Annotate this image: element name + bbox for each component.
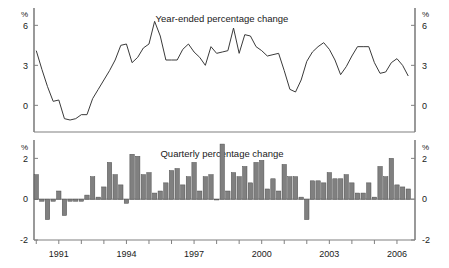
quarterly-bar — [293, 177, 297, 199]
quarterly-bar — [378, 167, 382, 200]
x-tick-label-1997: 1997 — [184, 249, 204, 259]
quarterly-bar — [276, 191, 280, 199]
bottom-unit-left: % — [21, 143, 28, 152]
quarterly-bar — [316, 181, 320, 199]
quarterly-bar — [361, 193, 365, 199]
quarterly-bar — [130, 154, 134, 199]
x-tick-label-1994: 1994 — [116, 249, 136, 259]
top-ytick-label-left-1: 3 — [23, 61, 28, 71]
quarterly-bar — [158, 191, 162, 199]
quarterly-bar — [338, 179, 342, 199]
quarterly-bar — [164, 183, 168, 199]
x-tick-label-2003: 2003 — [319, 249, 339, 259]
quarterly-bar — [169, 171, 173, 200]
top-panel-title: Year-ended percentage change — [156, 13, 289, 24]
x-tick-label-2000: 2000 — [252, 249, 272, 259]
quarterly-bar — [141, 175, 145, 199]
quarterly-bar — [271, 179, 275, 199]
quarterly-bar — [214, 199, 218, 200]
quarterly-bar — [51, 199, 55, 201]
quarterly-bar — [181, 185, 185, 199]
bottom-ytick-label-left-2: 2 — [23, 154, 28, 164]
top-ytick-label-left-2: 6 — [23, 21, 28, 31]
quarterly-bar — [372, 197, 376, 199]
quarterly-bar — [305, 199, 309, 219]
bottom-ytick-label-left-0: -2 — [20, 235, 28, 245]
quarterly-bar — [124, 199, 128, 203]
top-ytick-label-right-0: 0 — [422, 101, 427, 111]
quarterly-bar — [220, 144, 224, 199]
top-unit-right: % — [422, 10, 429, 19]
quarterly-bar — [265, 189, 269, 199]
top-ytick-label-left-0: 0 — [23, 101, 28, 111]
quarterly-bar — [350, 183, 354, 199]
top-ytick-label-right-2: 6 — [422, 21, 427, 31]
quarterly-bar — [327, 173, 331, 200]
quarterly-bar — [152, 193, 156, 199]
quarterly-bar — [231, 173, 235, 200]
quarterly-bar — [282, 164, 286, 199]
quarterly-bar — [355, 193, 359, 199]
quarterly-bar — [136, 156, 140, 199]
quarterly-bar — [85, 195, 89, 199]
chart-figure: Year-ended percentage change003366%%Quar… — [0, 0, 449, 268]
year-ended-line-series — [36, 21, 408, 120]
quarterly-bar — [406, 189, 410, 199]
quarterly-bar — [299, 197, 303, 199]
quarterly-bar — [288, 177, 292, 199]
quarterly-bar — [260, 160, 264, 199]
quarterly-bar — [45, 199, 49, 219]
bottom-ytick-label-right-0: -2 — [422, 235, 430, 245]
quarterly-bar — [34, 175, 38, 199]
quarterly-bar — [254, 162, 258, 199]
top-unit-left: % — [21, 10, 28, 19]
quarterly-bar — [192, 162, 196, 199]
quarterly-bar — [383, 177, 387, 199]
quarterly-bar — [40, 199, 44, 201]
quarterly-bar — [57, 191, 61, 199]
bottom-ytick-label-left-1: 0 — [23, 194, 28, 204]
quarterly-bar — [113, 175, 117, 199]
quarterly-bar — [107, 162, 111, 199]
bottom-panel: Quarterly percentage change-2-20022%% — [20, 140, 430, 245]
quarterly-bar — [119, 185, 123, 199]
quarterly-bar — [68, 199, 72, 201]
quarterly-bar — [243, 167, 247, 200]
quarterly-bar — [248, 183, 252, 199]
top-panel: Year-ended percentage change003366%% — [21, 8, 429, 132]
bottom-ytick-label-right-2: 2 — [422, 154, 427, 164]
quarterly-bar — [395, 185, 399, 199]
chart-svg: Year-ended percentage change003366%%Quar… — [0, 0, 449, 268]
quarterly-bar — [322, 183, 326, 199]
quarterly-bar — [310, 181, 314, 199]
quarterly-bar — [74, 199, 78, 201]
quarterly-bar — [333, 179, 337, 199]
bottom-unit-right: % — [422, 143, 429, 152]
quarterly-bar — [203, 177, 207, 199]
quarterly-bar — [96, 197, 100, 199]
top-ytick-label-right-1: 3 — [422, 61, 427, 71]
quarterly-bar — [367, 183, 371, 199]
x-tick-label-1991: 1991 — [49, 249, 69, 259]
quarterly-bar — [344, 175, 348, 199]
quarterly-bar — [90, 177, 94, 199]
quarterly-bar — [400, 187, 404, 199]
quarterly-bar — [209, 175, 213, 199]
quarterly-bar — [389, 158, 393, 199]
quarterly-bar — [147, 173, 151, 200]
quarterly-bar — [175, 169, 179, 200]
quarterly-bar — [62, 199, 66, 215]
bottom-ytick-label-right-1: 0 — [422, 194, 427, 204]
quarterly-bar — [198, 191, 202, 199]
quarterly-bar — [102, 187, 106, 199]
x-axis: 199119941997200020032006 — [36, 240, 407, 259]
quarterly-bar — [226, 191, 230, 199]
quarterly-bar — [186, 177, 190, 199]
quarterly-bar — [79, 199, 83, 201]
x-tick-label-2006: 2006 — [387, 249, 407, 259]
quarterly-bar — [237, 177, 241, 199]
